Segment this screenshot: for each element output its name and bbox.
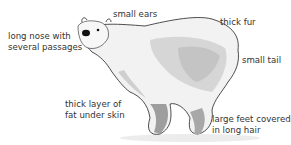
label-large-feet: large feet covered in long hair [212,114,291,136]
label-thick-fur: thick fur [220,17,256,28]
label-small-tail: small tail [242,55,281,66]
label-long-nose: long nose with several passages [8,31,82,53]
polar-bear-diagram: small ears thick fur long nose with seve… [0,0,291,145]
label-small-ears: small ears [113,9,157,20]
label-thick-fat: thick layer of fat under skin [65,99,125,121]
